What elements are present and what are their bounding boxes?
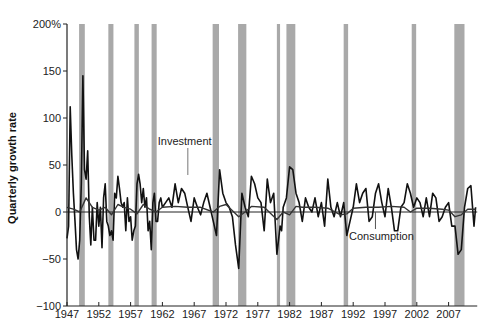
recession-band [134, 24, 138, 306]
y-tick-label: 0 [55, 206, 61, 218]
recession-band [213, 24, 219, 306]
x-tick-label: 1987 [309, 308, 333, 320]
y-axis-ticks: 200%150100500−50−100 [33, 18, 67, 312]
recession-bands [79, 24, 464, 306]
recession-band [286, 24, 295, 306]
x-tick-label: 1972 [214, 308, 238, 320]
recession-band [344, 24, 348, 306]
x-tick-label: 1952 [87, 308, 111, 320]
x-axis-ticks: 1947195219571962196719721977198219871992… [55, 302, 461, 320]
y-tick-label: 150 [43, 65, 61, 77]
series-annotations: InvestmentConsumption [158, 135, 414, 242]
y-tick-label: −50 [42, 253, 61, 265]
growth-rate-chart: 200%150100500−50−100 1947195219571962196… [0, 0, 503, 331]
x-tick-label: 1967 [182, 308, 206, 320]
recession-band [412, 24, 416, 306]
consumption-label: Consumption [349, 230, 414, 242]
y-tick-label: 50 [49, 159, 61, 171]
x-tick-label: 1982 [277, 308, 301, 320]
x-tick-label: 1947 [55, 308, 79, 320]
x-tick-label: 1957 [118, 308, 142, 320]
x-tick-label: 2002 [405, 308, 429, 320]
recession-band [277, 24, 280, 306]
x-tick-label: 1962 [150, 308, 174, 320]
investment-label: Investment [158, 135, 212, 147]
x-tick-label: 1997 [373, 308, 397, 320]
x-tick-label: 1977 [246, 308, 270, 320]
recession-band [108, 24, 113, 306]
recession-band [152, 24, 157, 306]
x-tick-label: 1992 [341, 308, 365, 320]
recession-band [454, 24, 464, 306]
y-tick-label: 200% [33, 18, 61, 30]
x-tick-label: 2007 [436, 308, 460, 320]
y-tick-label: 100 [43, 112, 61, 124]
